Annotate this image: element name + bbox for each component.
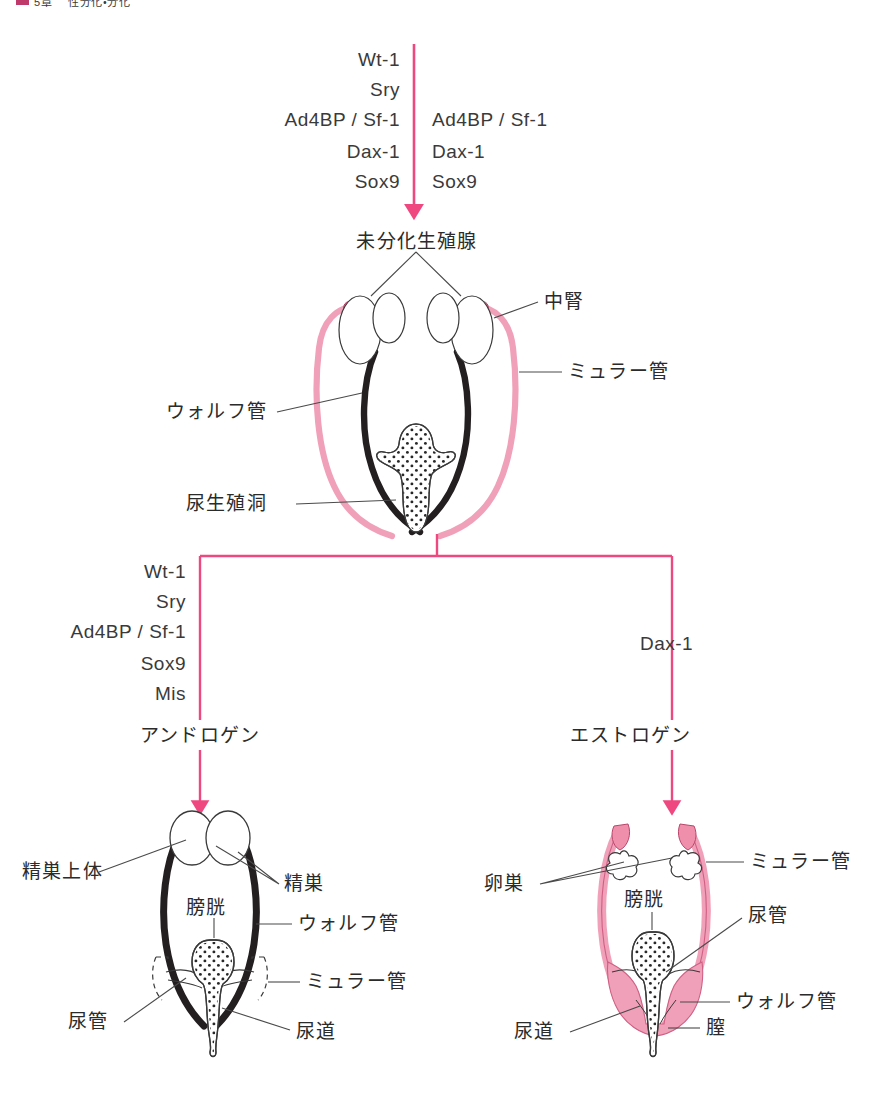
label-mesonephros: 中腎 bbox=[544, 292, 584, 311]
anatomy-artwork bbox=[0, 0, 877, 1094]
female-hormone-label: エストロゲン bbox=[570, 726, 691, 745]
top-gene-right-1: Dax-1 bbox=[432, 142, 485, 161]
label-bladder-female: 膀胱 bbox=[624, 890, 664, 909]
label-wolffian-duct-top: ウォルフ管 bbox=[166, 402, 267, 421]
label-ovary: 卵巣 bbox=[484, 874, 524, 893]
male-gene-1: Sry bbox=[86, 592, 186, 611]
top-gene-right-0: Ad4BP / Sf-1 bbox=[432, 110, 548, 129]
label-urethra-male: 尿道 bbox=[296, 1022, 336, 1041]
undifferentiated-gonad-title: 未分化生殖腺 bbox=[356, 232, 477, 251]
label-bladder-male: 膀胱 bbox=[186, 898, 226, 917]
male-gene-2: Ad4BP / Sf-1 bbox=[26, 622, 186, 641]
label-wolffian-duct-female: ウォルフ管 bbox=[736, 992, 837, 1011]
female-gene-0: Dax-1 bbox=[640, 634, 693, 653]
male-hormone-label: アンドロゲン bbox=[140, 726, 260, 745]
branch-connector bbox=[200, 534, 672, 808]
male-gene-4: Mis bbox=[86, 684, 186, 703]
male-gene-3: Sox9 bbox=[86, 654, 186, 673]
top-gene-left-1: Sry bbox=[300, 80, 400, 99]
top-gene-right-2: Sox9 bbox=[432, 172, 477, 191]
top-gene-left-3: Dax-1 bbox=[300, 142, 400, 161]
male-organ-diagram bbox=[99, 811, 300, 1057]
label-ureter-female: 尿管 bbox=[748, 906, 788, 925]
top-gene-left-4: Sox9 bbox=[300, 172, 400, 191]
undifferentiated-gonad-diagram bbox=[277, 252, 562, 536]
top-gene-left-2: Ad4BP / Sf-1 bbox=[240, 110, 400, 129]
label-mullerian-duct-male: ミュラー管 bbox=[306, 972, 407, 991]
male-gene-0: Wt-1 bbox=[86, 562, 186, 581]
label-urethra-female: 尿道 bbox=[514, 1022, 554, 1041]
label-wolffian-duct-male: ウォルフ管 bbox=[298, 914, 399, 933]
label-mullerian-duct-female: ミュラー管 bbox=[750, 852, 851, 871]
label-vagina: 膣 bbox=[706, 1018, 726, 1037]
top-gene-left-0: Wt-1 bbox=[300, 50, 400, 69]
label-ureter-male: 尿管 bbox=[68, 1012, 108, 1031]
label-epididymis: 精巣上体 bbox=[22, 862, 103, 881]
label-testis: 精巣 bbox=[284, 874, 324, 893]
label-urogenital-sinus: 尿生殖洞 bbox=[186, 494, 267, 513]
label-mullerian-duct-top: ミュラー管 bbox=[568, 362, 669, 381]
figure-canvas: 5章性分化・分化 bbox=[0, 0, 877, 1094]
